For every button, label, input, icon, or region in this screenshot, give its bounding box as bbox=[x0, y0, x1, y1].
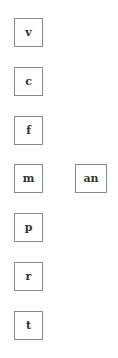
letter-tile-t[interactable]: t bbox=[14, 311, 43, 340]
letter-tile-v[interactable]: v bbox=[14, 18, 43, 47]
letter-tile-an[interactable]: an bbox=[75, 164, 107, 193]
letter-tile-p[interactable]: p bbox=[14, 213, 43, 242]
letter-tile-c[interactable]: c bbox=[14, 67, 43, 96]
letter-tile-r[interactable]: r bbox=[14, 262, 43, 291]
letter-tile-f[interactable]: f bbox=[14, 116, 43, 145]
letter-tile-m[interactable]: m bbox=[14, 164, 43, 193]
